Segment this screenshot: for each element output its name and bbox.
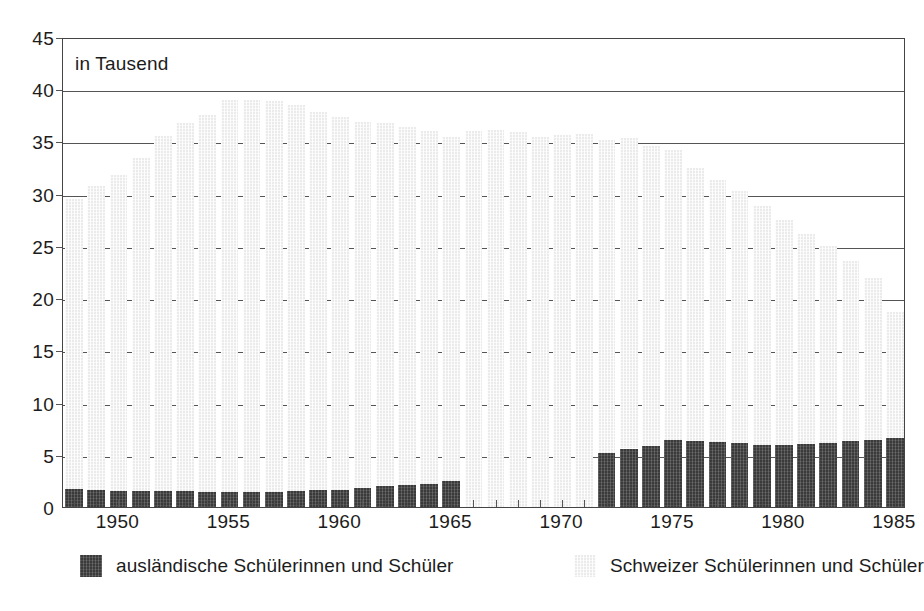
bar-segment-swiss (709, 180, 727, 442)
bar-segment-foreign (864, 440, 882, 507)
legend-label: Schweizer Schülerinnen und Schüler (610, 555, 924, 577)
bar-group (309, 38, 327, 507)
bar-segment-swiss (65, 199, 83, 489)
legend-swatch-icon (574, 555, 596, 577)
bar-segment-foreign (886, 438, 904, 507)
x-tick-label: 1955 (207, 511, 250, 533)
y-tick-label: 5 (43, 446, 54, 465)
x-tick-mark (784, 500, 785, 507)
x-tick-mark (562, 500, 563, 507)
bar-segment-swiss (243, 100, 261, 493)
bar-segment-swiss (864, 278, 882, 440)
bar-segment-foreign (686, 441, 704, 507)
bar-segment-swiss (198, 115, 216, 492)
bar-segment-foreign (598, 453, 616, 507)
x-tick-mark (340, 500, 341, 507)
bar-group (87, 38, 105, 507)
bar-segment-foreign (620, 449, 638, 507)
chart-legend: ausländische Schülerinnen und SchülerSch… (62, 552, 907, 586)
x-tick-mark (540, 500, 541, 507)
bar-segment-swiss (842, 261, 860, 442)
bar-segment-foreign (642, 446, 660, 507)
x-tick-mark (362, 500, 363, 507)
y-tick-label: 35 (32, 133, 54, 152)
bar-segment-swiss (553, 135, 571, 507)
bar-segment-swiss (642, 146, 660, 447)
bar-group (642, 38, 660, 507)
bar-segment-swiss (154, 136, 172, 491)
x-tick-label: 1980 (761, 511, 804, 533)
x-tick-mark (451, 500, 452, 507)
x-tick-mark (651, 500, 652, 507)
legend-label: ausländische Schülerinnen und Schüler (116, 555, 453, 577)
bar-group (709, 38, 727, 507)
x-tick-mark (673, 500, 674, 507)
bar-group (797, 38, 815, 507)
bar-segment-foreign (775, 445, 793, 507)
y-tick-label: 40 (32, 81, 54, 100)
x-tick-mark (629, 500, 630, 507)
x-tick-mark (740, 500, 741, 507)
y-tick-label: 10 (32, 394, 54, 413)
bar-group (354, 38, 372, 507)
x-tick-label: 1970 (539, 511, 582, 533)
x-tick-mark (496, 500, 497, 507)
bar-group (287, 38, 305, 507)
legend-item: Schweizer Schülerinnen und Schüler (574, 552, 924, 580)
bar-segment-swiss (753, 206, 771, 445)
legend-item: ausländische Schülerinnen und Schüler (80, 552, 453, 580)
bar-group (753, 38, 771, 507)
x-tick-mark (473, 500, 474, 507)
bar-group (331, 38, 349, 507)
x-tick-mark (318, 500, 319, 507)
y-axis: 051015202530354045 (0, 38, 54, 508)
bar-group (176, 38, 194, 507)
x-tick-mark (895, 500, 896, 507)
x-tick-mark (229, 500, 230, 507)
bar-segment-swiss (87, 186, 105, 490)
x-tick-mark (141, 500, 142, 507)
x-tick-mark (407, 500, 408, 507)
x-axis: 19501955196019651970197519801985 (62, 509, 905, 539)
plot-unit-note: in Tausend (75, 53, 169, 74)
bar-group (154, 38, 172, 507)
bar-group (110, 38, 128, 507)
bar-group (664, 38, 682, 507)
y-tick-label: 30 (32, 185, 54, 204)
bar-group (575, 38, 593, 507)
bar-group (886, 38, 904, 507)
x-tick-mark (828, 500, 829, 507)
bar-segment-swiss (309, 112, 327, 490)
y-tick-label: 45 (32, 29, 54, 48)
x-tick-mark (607, 500, 608, 507)
bar-group (65, 38, 83, 507)
bar-group (531, 38, 549, 507)
y-tick-label: 0 (43, 499, 54, 518)
bar-segment-swiss (598, 140, 616, 452)
y-tick-label: 25 (32, 237, 54, 256)
bar-segment-swiss (176, 123, 194, 492)
x-tick-label: 1975 (650, 511, 693, 533)
bar-group (842, 38, 860, 507)
bar-group (198, 38, 216, 507)
bar-group (132, 38, 150, 507)
bar-segment-swiss (287, 105, 305, 491)
bar-segment-foreign (731, 443, 749, 507)
bar-group (243, 38, 261, 507)
bar-segment-swiss (775, 220, 793, 446)
x-tick-mark (429, 500, 430, 507)
bar-group (442, 38, 460, 507)
bar-segment-foreign (664, 440, 682, 507)
x-tick-mark (385, 500, 386, 507)
bar-group (775, 38, 793, 507)
x-tick-mark (207, 500, 208, 507)
bar-segment-swiss (731, 191, 749, 444)
bar-segment-foreign (709, 442, 727, 507)
plot-area: in Tausend (62, 38, 905, 508)
bar-segment-swiss (819, 246, 837, 443)
bar-segment-foreign (819, 443, 837, 507)
bar-group (465, 38, 483, 507)
bar-segment-swiss (221, 100, 239, 493)
bar-segment-swiss (420, 131, 438, 484)
bar-group (487, 38, 505, 507)
